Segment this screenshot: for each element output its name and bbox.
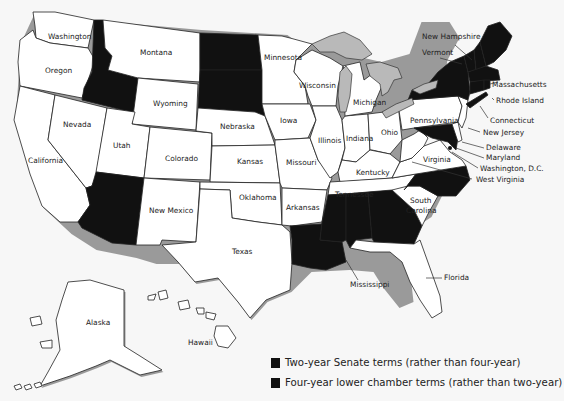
label-massachusetts: Massachusetts	[492, 80, 547, 89]
alaska-aleutians	[14, 382, 42, 390]
legend-item-lower-chamber: Four-year lower chamber terms (rather th…	[271, 377, 564, 388]
label-nebraska: Nebraska	[220, 122, 255, 131]
label-illinois: Illinois	[318, 136, 342, 145]
state-rhode-island[interactable]	[484, 80, 490, 90]
label-utah: Utah	[113, 141, 131, 150]
label-hawaii: Hawaii	[188, 338, 213, 347]
label-kentucky: Kentucky	[356, 168, 390, 177]
label-michigan: Michigan	[353, 98, 386, 107]
alaska-island-1	[30, 316, 42, 326]
label-montana: Montana	[140, 48, 172, 57]
label-alaska: Alaska	[86, 318, 110, 327]
label-mississippi: Mississippi	[350, 280, 389, 289]
label-new-jersey: New Jersey	[483, 128, 525, 137]
label-new-hampshire: New Hampshire	[422, 32, 481, 41]
label-south-carolina-2: Carolina	[406, 206, 436, 215]
label-oregon: Oregon	[45, 66, 72, 75]
label-arkansas: Arkansas	[286, 203, 320, 212]
legend-label-lower-chamber: Four-year lower chamber terms (rather th…	[285, 377, 562, 388]
legend-item-senate: Two-year Senate terms (rather than four-…	[271, 357, 564, 368]
label-west-virginia: West Virginia	[476, 175, 524, 184]
alaska-island-2	[40, 340, 52, 348]
label-texas: Texas	[231, 247, 253, 256]
label-connecticut: Connecticut	[490, 116, 534, 125]
label-indiana: Indiana	[346, 134, 373, 143]
state-alaska[interactable]	[40, 280, 162, 386]
label-south-carolina-1: South	[410, 196, 432, 205]
legend-swatch-lower-chamber	[271, 378, 280, 388]
label-new-mexico: New Mexico	[149, 206, 194, 215]
label-washington-dc: Washington, D.C.	[480, 164, 544, 173]
label-minnesota: Minnesota	[264, 53, 302, 62]
label-virginia: Virginia	[423, 155, 451, 164]
dc-marker[interactable]	[448, 146, 452, 150]
label-oklahoma: Oklahoma	[239, 193, 277, 202]
label-kansas: Kansas	[237, 157, 263, 166]
label-washington: Washington	[48, 32, 92, 41]
label-wyoming: Wyoming	[153, 99, 188, 108]
label-ohio: Ohio	[381, 128, 399, 137]
state-connecticut[interactable]	[470, 80, 484, 94]
label-wisconsin: Wisconsin	[299, 81, 336, 90]
label-colorado: Colorado	[165, 154, 199, 163]
label-missouri: Missouri	[286, 158, 316, 167]
legend-swatch-senate	[271, 358, 280, 368]
label-california: California	[28, 156, 63, 165]
label-iowa: Iowa	[280, 116, 297, 125]
label-vermont: Vermont	[422, 48, 453, 57]
state-north-dakota[interactable]	[200, 33, 262, 70]
us-map: Washington Oregon California Nevada Mont…	[0, 0, 564, 401]
label-pennsylvania: Pennsylvania	[410, 116, 459, 125]
label-florida: Florida	[444, 273, 469, 282]
state-maine[interactable]	[480, 22, 512, 66]
label-rhode-island: Rhode Island	[496, 96, 544, 105]
label-nevada: Nevada	[63, 120, 91, 129]
label-tennessee: Tennessee	[334, 190, 374, 199]
label-maryland: Maryland	[486, 153, 521, 162]
legend-label-senate: Two-year Senate terms (rather than four-…	[285, 357, 520, 368]
label-delaware: Delaware	[486, 143, 521, 152]
